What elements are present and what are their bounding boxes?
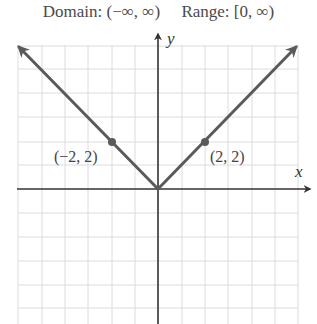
- point-neg2-2: [108, 138, 116, 146]
- point-2-2: [201, 138, 209, 146]
- y-axis-label: y: [165, 29, 175, 48]
- chart-plot: x y (−2, 2) (2, 2): [0, 0, 317, 324]
- point-label-2-2: (2, 2): [210, 148, 245, 166]
- x-axis-label: x: [294, 162, 303, 181]
- point-label-neg2-2: (−2, 2): [54, 148, 98, 166]
